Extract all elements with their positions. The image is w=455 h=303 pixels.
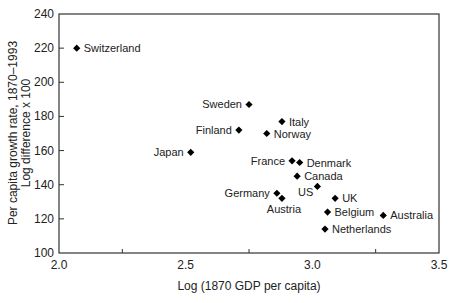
diamond-marker-icon <box>324 208 331 215</box>
point-label: Belgium <box>335 206 375 218</box>
y-tick-label: 240 <box>34 7 54 21</box>
y-tick-label: 120 <box>34 212 54 226</box>
point-label: Italy <box>289 116 310 128</box>
point-label: Germany <box>225 187 271 199</box>
data-point: Japan <box>154 146 195 158</box>
x-tick-label: 2.5 <box>177 258 194 272</box>
data-point: Belgium <box>324 206 374 218</box>
point-label: Sweden <box>202 98 242 110</box>
diamond-marker-icon <box>296 159 303 166</box>
diamond-marker-icon <box>288 157 295 164</box>
diamond-marker-icon <box>380 212 387 219</box>
point-label: France <box>251 155 285 167</box>
point-label: Australia <box>390 209 434 221</box>
y-tick-label: 220 <box>34 41 54 55</box>
data-point: Switzerland <box>73 42 140 54</box>
y-tick-label: 180 <box>34 109 54 123</box>
point-label: Switzerland <box>84 42 141 54</box>
point-label: Denmark <box>307 157 352 169</box>
y-tick-label: 160 <box>34 144 54 158</box>
y-axis-title: Per capita growth rate, 1870–1993 Log di… <box>6 41 33 225</box>
diamond-marker-icon <box>294 173 301 180</box>
data-point: Australia <box>380 209 434 221</box>
diamond-marker-icon <box>278 118 285 125</box>
data-point: Netherlands <box>321 223 391 235</box>
diamond-marker-icon <box>332 195 339 202</box>
y-tick-label: 100 <box>34 246 54 260</box>
point-label: Austria <box>267 203 302 215</box>
diamond-marker-icon <box>278 195 285 202</box>
data-point: Denmark <box>296 157 352 169</box>
data-point: UK <box>332 192 359 204</box>
data-point: Norway <box>263 128 311 140</box>
x-axis-title: Log (1870 GDP per capita) <box>177 279 320 293</box>
data-point: Germany <box>225 187 281 199</box>
data-point: Canada <box>294 170 344 182</box>
diamond-marker-icon <box>273 190 280 197</box>
y-tick-label: 140 <box>34 178 54 192</box>
diamond-marker-icon <box>321 226 328 233</box>
diamond-marker-icon <box>235 126 242 133</box>
diamond-marker-icon <box>73 45 80 52</box>
y-axis-title-line1: Per capita growth rate, 1870–1993 <box>6 41 20 225</box>
diamond-marker-icon <box>263 130 270 137</box>
point-label: Finland <box>196 124 232 136</box>
scatter-chart: 2.02.53.03.5 100120140160180200220240 Sw… <box>0 0 455 303</box>
data-points: SwitzerlandSwedenFinlandItalyNorwayJapan… <box>73 42 434 235</box>
data-point: Italy <box>278 116 309 128</box>
x-tick-label: 2.0 <box>51 258 68 272</box>
point-label: Netherlands <box>332 223 392 235</box>
data-point: US <box>298 183 321 199</box>
point-label: UK <box>342 192 358 204</box>
point-label: Norway <box>274 128 312 140</box>
data-point: Sweden <box>202 98 252 110</box>
diamond-marker-icon <box>245 101 252 108</box>
point-label: Japan <box>154 146 184 158</box>
x-tick-label: 3.5 <box>431 258 448 272</box>
diamond-marker-icon <box>187 149 194 156</box>
diamond-marker-icon <box>314 183 321 190</box>
data-point: Finland <box>196 124 243 136</box>
data-point: France <box>251 155 296 167</box>
point-label: Canada <box>304 170 343 182</box>
point-label: US <box>298 186 313 198</box>
data-point: Austria <box>267 195 302 216</box>
y-axis-title-line2: Log difference x 100 <box>19 78 33 187</box>
y-tick-label: 200 <box>34 75 54 89</box>
x-tick-label: 3.0 <box>304 258 321 272</box>
